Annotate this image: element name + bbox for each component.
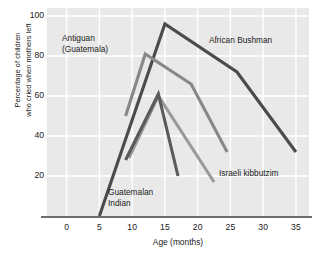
- line-chart: Percentage of children who cried when mo…: [0, 0, 317, 269]
- y-axis-tick-label: 40: [20, 131, 44, 140]
- x-axis-line: [41, 216, 312, 218]
- y-axis-tick-label: 80: [20, 51, 44, 60]
- x-axis-tick-label: 35: [286, 222, 306, 232]
- series-line-guatemalan-indian: [126, 94, 178, 176]
- x-axis-tick-label: 20: [188, 222, 208, 232]
- y-axis-tick-label: 60: [20, 91, 44, 100]
- x-axis-tick-label: 5: [89, 222, 109, 232]
- series-label-antiguan: Antiguan (Guatemala): [62, 33, 108, 54]
- x-axis-tick-label: 15: [155, 222, 175, 232]
- x-axis-title: Age (months): [47, 237, 309, 247]
- series-label-antiguan-line-1: Antiguan: [62, 33, 108, 44]
- series-line-antiguan-guatemala: [126, 54, 228, 152]
- series-label-african-bushman: African Bushman: [209, 35, 272, 46]
- x-axis-tick-label: 30: [253, 222, 273, 232]
- x-axis-tick-labels: 05101520253035: [47, 222, 309, 236]
- series-label-israeli-kibbutzim: Israeli kibbutzim: [219, 168, 278, 179]
- x-axis-tick-label: 25: [220, 222, 240, 232]
- x-axis-tick-label: 0: [57, 222, 77, 232]
- series-label-guatemalan-line-1: Guatemalan: [108, 187, 153, 198]
- series-label-antiguan-line-2: (Guatemala): [62, 44, 108, 55]
- y-axis-tick-labels: 20406080100: [16, 0, 44, 216]
- x-axis-tick-label: 10: [122, 222, 142, 232]
- y-axis-tick-label: 100: [20, 11, 44, 20]
- series-label-guatemalan-indian: Guatemalan Indian: [108, 187, 153, 208]
- y-axis-tick-label: 20: [20, 171, 44, 180]
- series-label-guatemalan-line-2: Indian: [108, 198, 153, 209]
- series-line-israeli-kibbutzim: [129, 96, 214, 182]
